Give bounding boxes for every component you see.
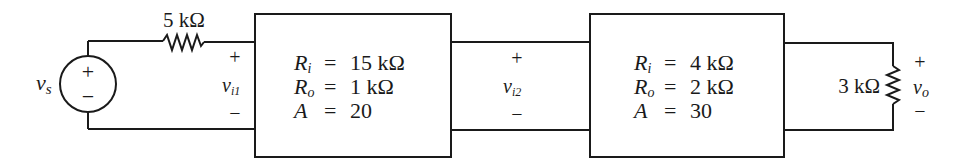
vo-label: vo [913,76,929,100]
cascaded-amplifier-diagram: + − vs 5 kΩ + vi1 − Ri=15 kΩ Ro=1 kΩ A=2… [0,0,966,168]
stage2-input-voltage: + vi2 − [503,47,523,125]
minus-sign: − [511,103,522,125]
load-resistor-symbol [887,66,899,104]
amplifier-2-box [590,14,784,157]
load-resistor-value: 3 kΩ [838,74,880,98]
voltage-source: + − vs [36,41,116,129]
source-plus: + [82,59,94,84]
series-resistor-value: 5 kΩ [163,8,205,32]
wire [784,104,893,130]
amplifier-2: Ri=4 kΩ Ro=2 kΩ A=30 [590,14,784,157]
source-minus: − [82,84,94,109]
minus-sign: − [914,100,925,122]
series-resistor-symbol [163,35,204,50]
source-label: vs [36,70,52,97]
plus-sign: + [914,51,925,73]
amp1-gain: A=20 [292,98,372,123]
plus-sign: + [229,46,240,68]
vi1-label: vi1 [222,74,240,98]
minus-sign: − [229,102,240,124]
plus-sign: + [511,47,522,69]
amp2-gain: A=30 [632,98,712,123]
vi2-label: vi2 [503,75,521,99]
stage1-input-voltage: + vi1 − [222,46,241,124]
amplifier-1: Ri=15 kΩ Ro=1 kΩ A=20 [255,14,451,157]
output-voltage: + vo − [913,51,929,122]
wire [784,43,893,66]
